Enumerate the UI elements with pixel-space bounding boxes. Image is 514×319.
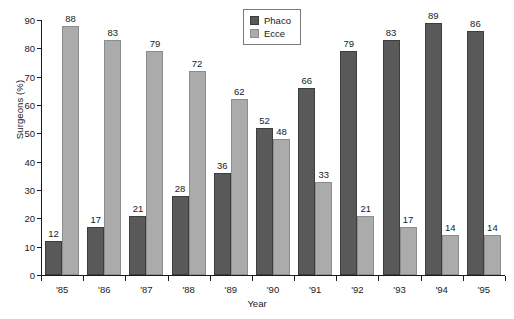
bar-ecce-91 (315, 182, 332, 276)
x-tick-mark (336, 276, 337, 281)
y-tick-label: 40 (24, 156, 35, 167)
legend-swatch-phaco (250, 16, 259, 25)
legend-item-ecce: Ecce (250, 27, 291, 40)
x-tick-label: '91 (309, 284, 321, 295)
legend-item-phaco: Phaco (250, 14, 291, 27)
y-tick-mark (37, 162, 41, 163)
x-tick-mark (41, 276, 42, 281)
y-tick-label: 60 (24, 100, 35, 111)
x-tick-mark (168, 276, 169, 281)
bar-value-label: 62 (234, 86, 245, 97)
bar-value-label: 66 (301, 75, 312, 86)
y-tick-mark (37, 77, 41, 78)
bar-ecce-89 (231, 99, 248, 275)
x-tick-label: '93 (393, 284, 405, 295)
y-tick-mark (37, 20, 41, 21)
bar-phaco-95 (467, 31, 484, 275)
bar-phaco-90 (256, 128, 273, 275)
bar-phaco-94 (425, 23, 442, 275)
x-tick-label: '90 (267, 284, 279, 295)
y-axis-line (41, 20, 42, 276)
bar-phaco-86 (87, 227, 104, 275)
y-tick-label: 10 (24, 241, 35, 252)
x-tick-label: '87 (140, 284, 152, 295)
y-tick-label: 50 (24, 128, 35, 139)
x-axis-line (41, 275, 505, 276)
bar-ecce-92 (357, 216, 374, 276)
bar-value-label: 21 (133, 203, 144, 214)
x-tick-label: '85 (56, 284, 68, 295)
x-tick-label: '95 (478, 284, 490, 295)
x-tick-mark (294, 276, 295, 281)
bar-phaco-87 (129, 216, 146, 276)
bar-phaco-88 (172, 196, 189, 275)
y-tick-label: 20 (24, 213, 35, 224)
bar-value-label: 14 (445, 222, 456, 233)
bar-value-label: 14 (487, 222, 498, 233)
bar-value-label: 48 (276, 126, 287, 137)
bar-value-label: 79 (344, 38, 355, 49)
bar-ecce-88 (189, 71, 206, 275)
bar-value-label: 28 (175, 183, 186, 194)
bar-phaco-85 (45, 241, 62, 275)
x-tick-label: '88 (182, 284, 194, 295)
legend-label: Ecce (264, 28, 285, 39)
bar-value-label: 17 (403, 214, 414, 225)
x-tick-mark (210, 276, 211, 281)
bar-value-label: 88 (65, 13, 76, 24)
y-tick-label: 0 (30, 270, 35, 281)
x-axis-title: Year (0, 298, 514, 309)
y-tick-mark (37, 48, 41, 49)
bar-ecce-90 (273, 139, 290, 275)
x-tick-mark (421, 276, 422, 281)
bar-value-label: 36 (217, 160, 228, 171)
bar-value-label: 86 (470, 18, 481, 29)
y-tick-mark (37, 218, 41, 219)
bar-ecce-85 (62, 26, 79, 275)
bar-ecce-94 (442, 235, 459, 275)
y-tick-mark (37, 247, 41, 248)
x-tick-label: '89 (225, 284, 237, 295)
x-tick-mark (83, 276, 84, 281)
bar-phaco-93 (383, 40, 400, 275)
x-tick-label: '94 (436, 284, 448, 295)
x-tick-mark (252, 276, 253, 281)
y-tick-mark (37, 105, 41, 106)
y-tick-label: 30 (24, 185, 35, 196)
x-tick-label: '92 (351, 284, 363, 295)
bar-ecce-93 (400, 227, 417, 275)
bar-value-label: 17 (90, 214, 101, 225)
plot-area: 0102030405060708090 '85'86'87'88'89'90'9… (41, 20, 505, 276)
y-axis-title: Surgeons (%) (14, 55, 25, 165)
x-tick-mark (505, 276, 506, 281)
bar-ecce-86 (104, 40, 121, 275)
bar-ecce-87 (146, 51, 163, 275)
y-tick-label: 80 (24, 43, 35, 54)
x-tick-mark (125, 276, 126, 281)
bar-phaco-91 (298, 88, 315, 275)
bar-value-label: 12 (48, 228, 59, 239)
legend-label: Phaco (264, 15, 291, 26)
bar-value-label: 21 (361, 203, 372, 214)
x-tick-label: '86 (98, 284, 110, 295)
bar-value-label: 52 (259, 115, 270, 126)
legend-swatch-ecce (250, 29, 259, 38)
chart-figure: Surgeons (%) Year 0102030405060708090 '8… (0, 0, 514, 319)
bar-value-label: 79 (150, 38, 161, 49)
bar-value-label: 72 (192, 58, 203, 69)
x-tick-mark (378, 276, 379, 281)
bar-phaco-92 (340, 51, 357, 275)
bar-phaco-89 (214, 173, 231, 275)
chart-legend: PhacoEcce (243, 9, 301, 45)
bar-value-label: 83 (107, 27, 118, 38)
x-tick-mark (463, 276, 464, 281)
bar-ecce-95 (484, 235, 501, 275)
y-tick-mark (37, 133, 41, 134)
y-tick-label: 70 (24, 71, 35, 82)
y-tick-mark (37, 190, 41, 191)
bar-value-label: 89 (428, 10, 439, 21)
bar-value-label: 83 (386, 27, 397, 38)
y-tick-label: 90 (24, 15, 35, 26)
bar-value-label: 33 (318, 169, 329, 180)
